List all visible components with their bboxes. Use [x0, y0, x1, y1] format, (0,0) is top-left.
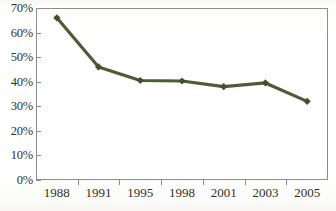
y-axis-tick-mark — [36, 106, 41, 107]
y-axis-tick-label: 10% — [11, 149, 33, 162]
y-axis-tick-label: 70% — [11, 2, 33, 15]
data-line — [57, 18, 307, 102]
y-axis-tick-mark — [36, 180, 41, 181]
x-axis-tick-mark — [119, 180, 120, 185]
y-axis-tick-mark — [36, 57, 41, 58]
y-axis-tick-label: 20% — [11, 125, 33, 138]
data-point-marker — [178, 77, 185, 84]
y-axis: 0%10%20%30%40%50%60%70% — [0, 8, 33, 180]
y-axis-tick-mark — [36, 155, 41, 156]
x-axis-tick-label: 2005 — [294, 186, 320, 199]
x-axis-tick-label: 2001 — [211, 186, 237, 199]
y-axis-tick-label: 30% — [11, 100, 33, 113]
x-axis-tick-label: 1991 — [86, 186, 112, 199]
x-axis-tick-label: 1988 — [44, 186, 70, 199]
data-point-marker — [220, 83, 227, 90]
y-axis-tick-mark — [36, 82, 41, 83]
x-axis-tick-label: 1995 — [127, 186, 153, 199]
y-axis-tick-label: 60% — [11, 26, 33, 39]
y-axis-tick-label: 50% — [11, 51, 33, 64]
y-axis-tick-mark — [36, 131, 41, 132]
x-axis-tick-label: 1998 — [169, 186, 195, 199]
x-axis-tick-mark — [203, 180, 204, 185]
chart-screenshot: 0%10%20%30%40%50%60%70% 1988199119951998… — [0, 0, 336, 211]
x-axis-tick-mark — [245, 180, 246, 185]
x-axis-tick-label: 2003 — [252, 186, 278, 199]
x-axis-tick-mark — [161, 180, 162, 185]
x-axis-tick-mark — [286, 180, 287, 185]
line-series-group — [36, 8, 328, 180]
y-axis-tick-mark — [36, 33, 41, 34]
y-axis-tick-label: 40% — [11, 75, 33, 88]
y-axis-tick-label: 0% — [17, 174, 33, 187]
data-point-marker — [137, 77, 144, 84]
x-axis-tick-mark — [78, 180, 79, 185]
y-axis-tick-mark — [36, 8, 41, 9]
